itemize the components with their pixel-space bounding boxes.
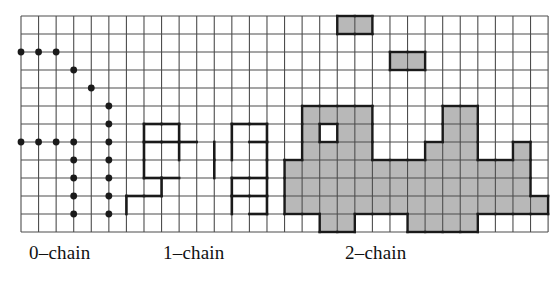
- two-chain-cell: [425, 214, 443, 232]
- two-chain-cell: [460, 196, 478, 214]
- zero-chain-vertex: [70, 139, 77, 146]
- zero-chain-vertex: [105, 193, 112, 200]
- two-chain-cell: [355, 178, 373, 196]
- two-chain-cell: [478, 196, 496, 214]
- two-chain-cell: [478, 178, 496, 196]
- zero-chain-vertex: [35, 139, 42, 146]
- two-chain-cell: [355, 142, 373, 160]
- two-chain-cell: [320, 214, 338, 232]
- two-chain-cell: [337, 214, 355, 232]
- two-chain-cell: [320, 160, 338, 178]
- zero-chain-vertex: [105, 121, 112, 128]
- chain-figure: 0–chain 1–chain 2–chain: [0, 0, 558, 281]
- two-chain-cell: [302, 196, 320, 214]
- two-chain-cell: [355, 124, 373, 142]
- two-chain-cell: [460, 106, 478, 124]
- two-chain-cell: [443, 160, 461, 178]
- zero-chain-vertex: [70, 67, 77, 74]
- two-chain-cell: [320, 196, 338, 214]
- two-chain-cell: [408, 196, 426, 214]
- two-chain-cell: [355, 106, 373, 124]
- two-chain-cell: [443, 124, 461, 142]
- two-chain-cell: [408, 52, 426, 70]
- zero-chain-vertex: [70, 211, 77, 218]
- two-chain-cell: [408, 160, 426, 178]
- two-chain-cell: [337, 196, 355, 214]
- two-chain-cell: [302, 142, 320, 160]
- two-chain-cell: [495, 196, 513, 214]
- zero-chain-vertex: [105, 103, 112, 110]
- two-chain-cell: [425, 160, 443, 178]
- zero-chain-vertex: [105, 139, 112, 146]
- two-chain-cell: [320, 142, 338, 160]
- two-chain-cell: [337, 178, 355, 196]
- two-chain-cell: [390, 52, 408, 70]
- zero-chain-vertex: [53, 139, 60, 146]
- two-chain-cell: [355, 16, 373, 34]
- two-chain-cell: [460, 178, 478, 196]
- zero-chain-vertex: [53, 49, 60, 56]
- two-chain-cell: [285, 196, 303, 214]
- two-chain-cell: [443, 106, 461, 124]
- two-chain-cell: [443, 178, 461, 196]
- two-chain-cell: [302, 106, 320, 124]
- two-chain-cell: [337, 142, 355, 160]
- two-chain-cell: [513, 178, 531, 196]
- two-chain-cell: [302, 124, 320, 142]
- two-chain-cell: [425, 196, 443, 214]
- two-chain-cell: [408, 178, 426, 196]
- two-chain-cell: [390, 160, 408, 178]
- two-chain-cell: [355, 160, 373, 178]
- two-chain-cell: [425, 142, 443, 160]
- two-chain-cell: [390, 178, 408, 196]
- zero-chain-vertex: [35, 49, 42, 56]
- two-chain-cell: [390, 196, 408, 214]
- two-chain-cell: [337, 16, 355, 34]
- two-chain-cell: [443, 142, 461, 160]
- two-chain-cell: [320, 106, 338, 124]
- two-chain-cell: [302, 160, 320, 178]
- chain-diagram-canvas: [0, 0, 558, 281]
- two-chain-cell: [513, 142, 531, 160]
- two-chain-cell: [513, 160, 531, 178]
- two-chain-cell: [372, 196, 390, 214]
- two-chain-cell: [460, 160, 478, 178]
- zero-chain-vertex: [18, 49, 25, 56]
- two-chain-cell: [443, 214, 461, 232]
- two-chain-cell: [355, 196, 373, 214]
- two-chain-cell: [372, 160, 390, 178]
- zero-chain-vertex: [105, 211, 112, 218]
- two-chain-cell: [372, 178, 390, 196]
- two-chain-cell: [460, 124, 478, 142]
- two-chain-cell: [495, 160, 513, 178]
- zero-chain-vertex: [105, 157, 112, 164]
- two-chain-cell: [320, 178, 338, 196]
- two-chain-cell: [531, 196, 549, 214]
- two-chain-cell: [513, 196, 531, 214]
- zero-chain-vertex: [18, 139, 25, 146]
- zero-chain-vertex: [70, 175, 77, 182]
- two-chain-cell: [478, 160, 496, 178]
- zero-chain-vertex: [70, 157, 77, 164]
- zero-chain-vertex: [70, 193, 77, 200]
- two-chain-cell: [302, 178, 320, 196]
- two-chain-cell: [337, 160, 355, 178]
- two-chain-cell: [460, 214, 478, 232]
- two-chain-cell: [425, 178, 443, 196]
- zero-chain-vertex: [105, 175, 112, 182]
- two-chain-cell: [285, 178, 303, 196]
- two-chain-cell: [337, 124, 355, 142]
- two-chain-cell: [495, 178, 513, 196]
- two-chain-cell: [460, 142, 478, 160]
- two-chain-cell: [443, 196, 461, 214]
- zero-chain-vertex: [88, 85, 95, 92]
- two-chain-cell: [408, 214, 426, 232]
- two-chain-cell: [285, 160, 303, 178]
- two-chain-cell: [337, 106, 355, 124]
